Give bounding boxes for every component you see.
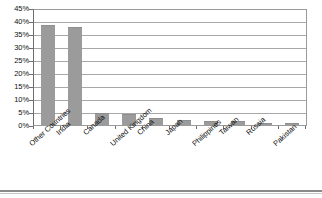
y-tick-label: 40% bbox=[14, 18, 29, 26]
bar-slot bbox=[88, 10, 115, 126]
bar-slot bbox=[279, 10, 306, 126]
bar-slot bbox=[224, 10, 251, 126]
y-tick-label: 20% bbox=[14, 70, 29, 78]
bar-slot bbox=[252, 10, 279, 126]
bar-chart: 45%40%35%30%25%20%15%10%5%0% Other Count… bbox=[0, 0, 322, 198]
y-tick-label: 15% bbox=[14, 83, 29, 91]
x-axis-labels: Other CountriesIndiaCanadaUnited Kingdom… bbox=[0, 128, 322, 190]
y-tick-label: 45% bbox=[14, 5, 29, 13]
bar-slot bbox=[170, 10, 197, 126]
y-tick-label: 10% bbox=[14, 96, 29, 104]
y-tick-label: 25% bbox=[14, 57, 29, 65]
y-tick-label: 30% bbox=[14, 44, 29, 52]
bar bbox=[41, 25, 55, 126]
footer-rule bbox=[0, 190, 322, 192]
y-tick-label: 5% bbox=[18, 109, 29, 117]
footer-rule-shadow bbox=[0, 193, 322, 194]
bar-slot bbox=[116, 10, 143, 126]
y-tick-label: 35% bbox=[14, 31, 29, 39]
bars-layer bbox=[34, 10, 306, 126]
y-axis: 45%40%35%30%25%20%15%10%5%0% bbox=[0, 0, 31, 140]
bar-slot bbox=[197, 10, 224, 126]
bar-slot bbox=[34, 10, 61, 126]
